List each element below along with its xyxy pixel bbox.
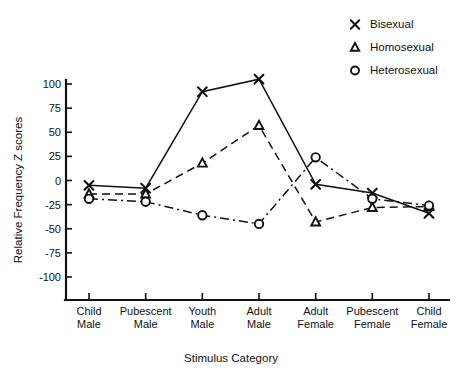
line-chart: BisexualHomosexualHeterosexual 100755025…: [0, 0, 461, 380]
chart-legend: BisexualHomosexualHeterosexual: [351, 18, 438, 76]
y-axis-ticks: 1007550250-25-50-75-100: [39, 78, 72, 283]
x-axis-title: Stimulus Category: [184, 352, 278, 364]
x-axis-category-label: Child: [76, 305, 101, 317]
y-axis-tick-label: -75: [45, 247, 61, 259]
y-axis-tick-label: 100: [43, 78, 61, 90]
triangle-marker-icon: [255, 121, 264, 129]
x-axis-category-labels: ChildMalePubescentMaleYouthMaleAdultMale…: [76, 305, 447, 330]
chart-figure: BisexualHomosexualHeterosexual 100755025…: [0, 0, 461, 380]
y-axis-tick-label: -25: [45, 199, 61, 211]
y-axis-tick-label: -100: [39, 271, 61, 283]
circle-marker-icon: [368, 195, 376, 203]
circle-marker-icon: [198, 211, 206, 219]
y-axis-tick-label: -50: [45, 223, 61, 235]
triangle-marker-icon: [311, 217, 320, 225]
circle-marker-icon: [311, 153, 319, 161]
series-line: [89, 157, 429, 224]
chart-series: [85, 75, 434, 218]
x-axis-category-label: Pubescent: [346, 305, 398, 317]
circle-marker-icon: [351, 67, 359, 75]
x-axis-category-label: Female: [411, 318, 448, 330]
circle-marker-icon: [255, 220, 263, 228]
y-axis-tick-label: 25: [49, 150, 61, 162]
chart-series: [85, 121, 434, 226]
x-axis-category-label: Female: [354, 318, 391, 330]
y-axis-tick-label: 0: [55, 175, 61, 187]
x-axis-category-label: Child: [416, 305, 441, 317]
circle-marker-icon: [85, 195, 93, 203]
chart-series: [85, 153, 433, 228]
circle-marker-icon: [141, 198, 149, 206]
x-axis-category-label: Pubescent: [120, 305, 172, 317]
x-axis-category-label: Male: [247, 318, 271, 330]
legend-item-label: Homosexual: [370, 41, 434, 53]
y-axis-tick-label: 50: [49, 126, 61, 138]
circle-marker-icon: [425, 201, 433, 209]
chart-series-group: [85, 75, 434, 228]
x-axis-category-label: Female: [297, 318, 334, 330]
series-line: [89, 79, 429, 213]
x-axis-category-label: Youth: [188, 305, 216, 317]
x-axis-category-label: Adult: [303, 305, 328, 317]
x-axis-category-label: Male: [134, 318, 158, 330]
x-axis-category-label: Male: [190, 318, 214, 330]
legend-item-label: Bisexual: [370, 18, 413, 30]
x-marker-icon: [351, 20, 359, 28]
y-axis-tick-label: 75: [49, 102, 61, 114]
legend-item-label: Heterosexual: [370, 64, 438, 76]
x-axis-category-label: Male: [77, 318, 101, 330]
series-line: [89, 126, 429, 223]
triangle-marker-icon: [351, 43, 359, 51]
chart-axes: [65, 80, 449, 300]
x-axis-category-label: Adult: [246, 305, 271, 317]
triangle-marker-icon: [198, 158, 207, 166]
y-axis-title: Relative Frequency Z scores: [12, 117, 24, 264]
